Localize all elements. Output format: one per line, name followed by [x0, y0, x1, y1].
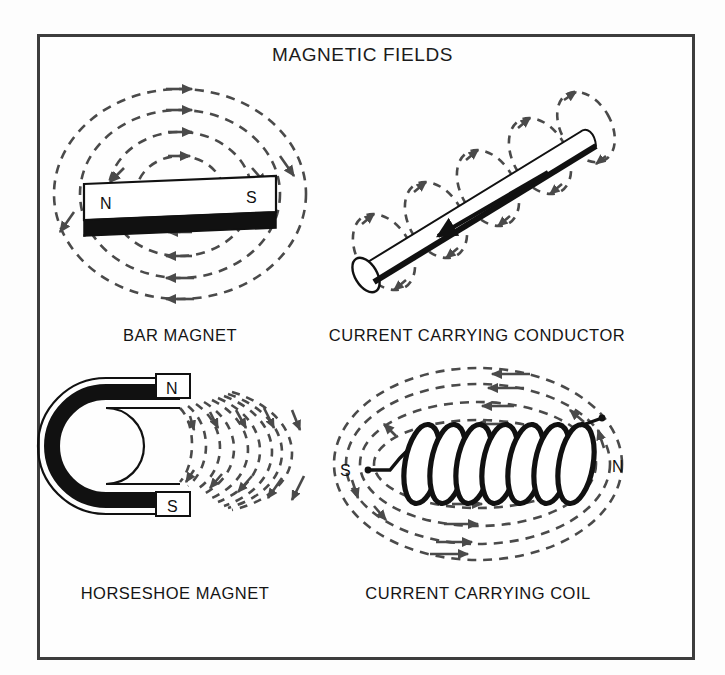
horseshoe-pole-north: N — [166, 380, 178, 397]
conductor-current-arrow — [438, 172, 548, 236]
bar-magnet-diagram: N S — [40, 72, 320, 322]
caption-current-carrying-coil: CURRENT CARRYING COIL — [318, 584, 638, 603]
bar-magnet-body — [84, 176, 276, 236]
coil-pole-north: N — [612, 458, 624, 475]
horseshoe-pole-south: S — [167, 498, 178, 515]
caption-horseshoe-magnet: HORSESHOE MAGNET — [30, 584, 320, 603]
figure-title: MAGNETIC FIELDS — [0, 44, 725, 66]
bar-magnet-pole-south: S — [246, 189, 257, 206]
panel-bar-magnet: N S BAR MAGNET — [40, 72, 320, 362]
conductor-diagram — [318, 72, 636, 322]
caption-current-carrying-conductor: CURRENT CARRYING CONDUCTOR — [318, 326, 636, 345]
panel-current-carrying-conductor: CURRENT CARRYING CONDUCTOR — [318, 72, 636, 362]
coil-diagram: S N — [318, 352, 638, 580]
coil-pole-south: S — [340, 462, 351, 479]
horseshoe-magnet-diagram: N S — [30, 352, 320, 580]
caption-bar-magnet: BAR MAGNET — [40, 326, 320, 345]
bar-magnet-pole-north: N — [100, 195, 112, 212]
panel-current-carrying-coil: S N CURRENT CARRYING COIL — [318, 352, 638, 624]
panel-horseshoe-magnet: N S HORSESHOE MAGNET — [30, 352, 320, 624]
horseshoe-field-lines — [180, 392, 292, 510]
